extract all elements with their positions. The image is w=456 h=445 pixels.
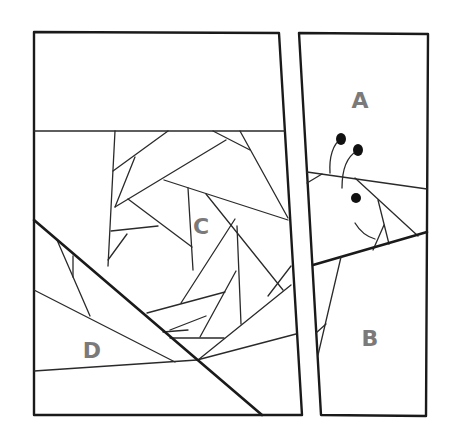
section-label-d: D — [83, 338, 101, 363]
antenna-tip-right — [353, 144, 363, 156]
antenna-tip-left — [336, 133, 346, 145]
section-label-c: C — [193, 214, 209, 239]
section-label-a: A — [351, 88, 368, 113]
left-panel-outline — [34, 32, 302, 415]
pattern-diagram: A B C D — [0, 0, 456, 445]
pattern-svg: A B C D — [0, 0, 456, 445]
section-label-b: B — [362, 326, 379, 351]
eye — [351, 193, 361, 203]
